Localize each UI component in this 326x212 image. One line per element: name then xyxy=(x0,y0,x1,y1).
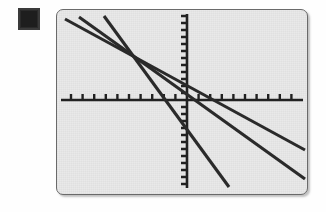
plot-line-line-2-medium xyxy=(79,17,305,179)
dark-square-marker xyxy=(18,8,40,30)
plot-line-line-3-steep xyxy=(104,16,229,187)
graph-plot xyxy=(57,10,307,194)
page-root xyxy=(0,0,326,212)
screen-inner xyxy=(57,10,307,194)
dark-square-marker-inner xyxy=(21,11,37,27)
graphing-calculator-screen[interactable] xyxy=(56,9,308,195)
plot-line-line-1-shallow xyxy=(65,19,305,150)
